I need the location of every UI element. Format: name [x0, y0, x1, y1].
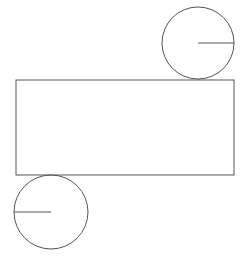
lateral-surface-rectangle — [16, 80, 234, 175]
cylinder-net-diagram — [0, 0, 248, 266]
